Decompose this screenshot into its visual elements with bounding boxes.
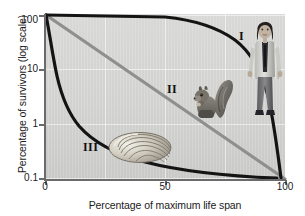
y-tick-mark-100 (39, 15, 45, 17)
y-tick-mark-10 (39, 69, 45, 71)
y-tick-mark-1 (39, 124, 45, 126)
oyster-shell-illustration (108, 131, 172, 164)
curve-label-type-III: III (83, 140, 98, 155)
y-tick-label-1: 1 (12, 119, 38, 129)
x-axis-title: Percentage of maximum life span (45, 199, 285, 211)
y-tick-label-10: 10 (12, 64, 38, 74)
human-figure-illustration (243, 15, 287, 118)
x-tick-label-50: 50 (150, 182, 180, 192)
x-tick-label-100: 100 (270, 182, 300, 192)
y-tick-label-100: 100 (12, 15, 38, 25)
x-tick-label-0: 0 (30, 182, 60, 192)
plot-area: I II III (45, 14, 285, 179)
y-axis-line (44, 14, 46, 180)
curve-label-type-II: II (167, 82, 177, 97)
squirrel-illustration (187, 76, 235, 122)
survivorship-curve-figure: Percentage of survivors (log scale) 100 … (0, 0, 305, 216)
